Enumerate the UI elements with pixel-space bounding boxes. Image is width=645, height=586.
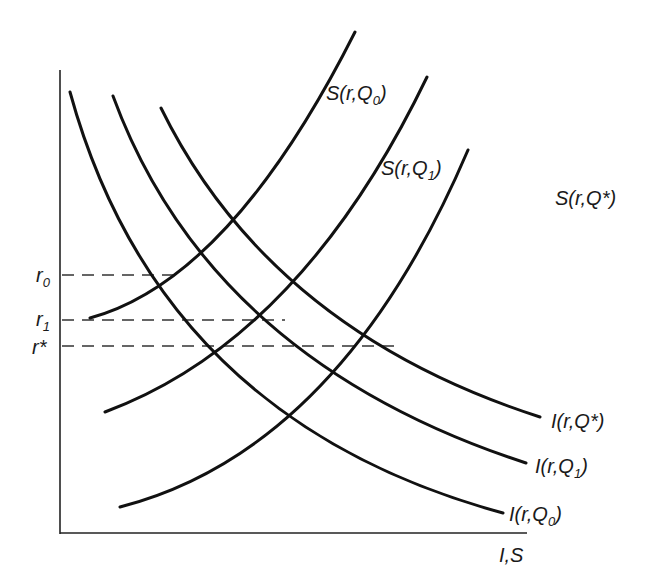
x-axis-label: I,S [499,544,524,566]
label-s-q0: S(r,Q0) [326,82,387,108]
curve-i-q0 [70,92,503,513]
label-s-qstar: S(r,Q*) [555,187,616,209]
label-i-q1: I(r,Q1) [535,455,588,481]
y-label-r1: r1 [36,308,50,334]
y-label-r0: r0 [36,264,51,290]
curve-i-qstar [161,108,540,417]
label-i-q0: I(r,Q0) [509,503,562,529]
label-s-q1: S(r,Q1) [381,157,442,183]
curve-s-qstar [120,150,468,507]
is-diagram: I,S r0 r1 r* S(r,Q0) S(r,Q1) S(r,Q*) I(r… [0,0,645,586]
curve-s-q1 [105,77,427,412]
label-i-qstar: I(r,Q*) [551,410,604,432]
y-label-rstar: r* [32,336,48,358]
curve-i-q1 [113,96,526,463]
